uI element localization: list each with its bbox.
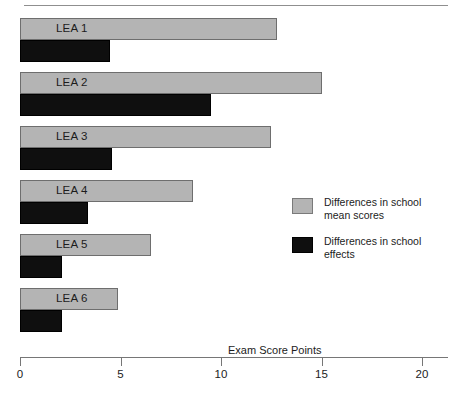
x-axis-tick [322,357,323,366]
bar-category-label: LEA 6 [56,288,88,310]
bar-school-effects [20,256,62,278]
x-axis-tick-label: 5 [117,368,123,380]
legend-swatch-school-effects [292,237,313,253]
bar-chart-figure: LEA 1LEA 2LEA 3LEA 4LEA 5LEA 6 05101520 … [0,0,452,397]
bar-school-effects [20,310,62,332]
bar-category-label: LEA 4 [56,180,88,202]
x-axis-title: Exam Score Points [228,344,322,356]
x-axis-tick [20,357,21,366]
x-axis-line [20,357,448,358]
bar-school-effects [20,202,88,224]
x-axis-tick-label: 0 [17,368,23,380]
x-axis-tick-label: 10 [215,368,228,380]
legend-swatch-mean-scores [292,198,313,214]
bar-category-label: LEA 3 [56,126,88,148]
x-axis-tick-label: 20 [416,368,429,380]
bar-school-effects [20,40,110,62]
legend-label-school-effects: Differences in school effects [324,235,440,261]
x-axis-tick-label: 15 [315,368,328,380]
bar-school-effects [20,148,112,170]
bar-category-label: LEA 2 [56,72,88,94]
bar-category-label: LEA 5 [56,234,88,256]
x-axis-tick [221,357,222,366]
x-axis-tick [121,357,122,366]
legend-label-mean-scores: Differences in school mean scores [324,196,440,222]
bar-school-effects [20,94,211,116]
x-axis-tick [422,357,423,366]
bar-category-label: LEA 1 [56,18,88,40]
bar-mean-scores [20,180,193,202]
